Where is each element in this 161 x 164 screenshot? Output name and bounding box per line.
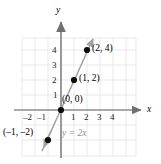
x-tick-label-2: 2 — [84, 113, 89, 122]
point-label-0-0: (0, 0) — [62, 95, 83, 105]
y-tick-label-1: 1 — [53, 91, 58, 100]
equation-label: y = 2x — [62, 129, 86, 139]
data-point-2-4 — [84, 47, 90, 53]
data-point-origin — [58, 107, 64, 113]
x-tick-label-4: 4 — [110, 113, 115, 122]
point-label-2-4: (2, 4) — [92, 44, 113, 54]
point-label-neg1-neg2: (–1, –2) — [3, 128, 33, 138]
graph-figure: y x –2 –1 1 2 3 4 4 3 2 1 (2, 4) (1, 2) … — [0, 0, 161, 164]
y-tick-label-3: 3 — [52, 61, 57, 70]
x-axis-label: x — [147, 105, 151, 115]
point-label-1-2: (1, 2) — [79, 74, 100, 84]
x-tick-label-neg1: –1 — [37, 113, 46, 122]
x-tick-label-1: 1 — [71, 113, 76, 122]
y-tick-label-2: 2 — [52, 76, 57, 85]
x-tick-label-neg2: –2 — [23, 113, 32, 122]
data-point-neg1-neg2 — [45, 137, 51, 143]
y-tick-label-4: 4 — [52, 46, 57, 55]
data-point-1-2 — [71, 77, 77, 83]
x-tick-label-3: 3 — [97, 113, 102, 122]
y-axis-label: y — [56, 6, 60, 16]
